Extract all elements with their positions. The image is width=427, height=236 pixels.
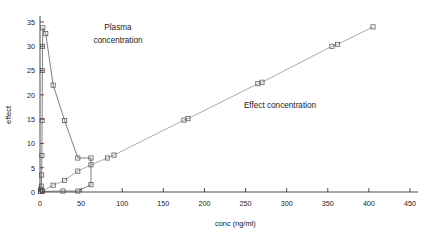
y-tick-label: 20 [27,91,35,100]
annotation-plasma-line2: concentration [93,36,143,45]
x-tick-label: 350 [322,199,334,208]
y-tick-label: 15 [27,115,35,124]
x-tick-label: 150 [157,199,169,208]
x-tick-label: 250 [240,199,252,208]
plot-area: 050100150200250300350400450 051015202530… [0,0,427,236]
x-tick-label: 200 [198,199,210,208]
series-effect-concentration [39,25,375,194]
annotation-effect: Effect concentration [244,101,317,110]
series-path [40,28,91,192]
x-tick-label: 50 [77,199,85,208]
y-tick-label: 35 [27,18,35,27]
x-tick-label: 400 [363,199,375,208]
x-tick-label: 0 [38,199,42,208]
chart-container: 050100150200250300350400450 051015202530… [0,0,427,236]
x-tick-label: 100 [116,199,128,208]
x-tick-label: 450 [404,199,416,208]
series-plasma-concentration [38,26,93,194]
y-tick-label: 10 [27,139,35,148]
annotation-plasma-line1: Plasma [104,23,132,32]
x-axis-ticks: 050100150200250300350400450 [38,188,416,208]
x-tick-label: 300 [281,199,293,208]
y-tick-label: 5 [31,164,35,173]
y-tick-label: 0 [31,188,35,197]
y-tick-label: 25 [27,66,35,75]
y-tick-label: 30 [27,42,35,51]
y-axis-title: effect [4,106,13,124]
x-axis: 050100150200250300350400450 [38,188,418,208]
data-series-group [38,25,375,194]
x-axis-title: conc (ng/ml) [215,219,256,228]
